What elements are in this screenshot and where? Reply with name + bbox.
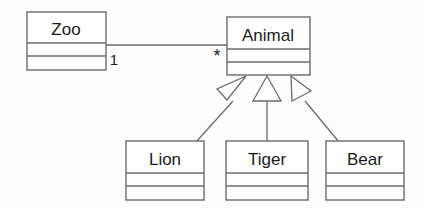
class-box-bear[interactable]: Bear — [326, 141, 404, 200]
class-name-zoo: Zoo — [51, 20, 80, 39]
inheritance-triangle-tiger — [253, 76, 281, 101]
inheritance-triangle-bear — [291, 76, 311, 101]
generalization-line-lion — [196, 101, 233, 142]
class-box-zoo[interactable]: Zoo — [27, 12, 106, 70]
class-box-tiger[interactable]: Tiger — [226, 141, 308, 200]
generalization-tiger-animal[interactable] — [253, 76, 281, 141]
class-name-bear: Bear — [347, 150, 383, 169]
multiplicity-label-zoo-side: 1 — [110, 51, 118, 68]
class-name-tiger: Tiger — [248, 150, 286, 169]
inheritance-triangle-lion — [217, 76, 246, 100]
diagram-canvas: Zoo Animal Lion Tiger Bear — [0, 0, 426, 210]
class-box-lion[interactable]: Lion — [126, 141, 204, 200]
class-name-animal: Animal — [242, 26, 294, 45]
class-box-animal[interactable]: Animal — [227, 17, 310, 75]
uml-class-diagram: Zoo Animal Lion Tiger Bear — [0, 0, 426, 210]
generalization-bear-animal[interactable] — [291, 76, 339, 142]
generalization-lion-animal[interactable] — [196, 76, 246, 142]
multiplicity-label-animal-side: * — [213, 46, 220, 66]
generalization-line-bear — [305, 101, 339, 142]
class-name-lion: Lion — [149, 150, 181, 169]
